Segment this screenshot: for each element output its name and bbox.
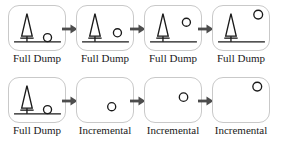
circle-marker-icon [254, 10, 263, 19]
state-panel [76, 5, 134, 51]
state-panel [212, 77, 270, 123]
tree-icon [224, 14, 237, 42]
panel-graphics [213, 6, 269, 50]
panel-caption: Full Dump [1, 52, 73, 65]
tree-icon [156, 14, 169, 42]
panel-graphics [145, 6, 201, 50]
circle-marker-icon [179, 93, 187, 101]
tree-icon [88, 14, 101, 42]
panel-graphics [9, 78, 65, 122]
circle-marker-icon [108, 103, 116, 111]
circle-marker-icon [253, 82, 262, 91]
panel-graphics [213, 78, 269, 122]
sequence-cell: Full Dump [210, 0, 278, 77]
sequence-cell: Incremental [210, 72, 278, 149]
circle-marker-icon [182, 18, 190, 26]
sequence-cell: Incremental [74, 72, 142, 149]
panel-caption: Full Dump [69, 52, 141, 65]
circle-marker-icon [44, 106, 52, 114]
sequence-cell: Full Dump [74, 0, 142, 77]
tree-icon [20, 86, 33, 114]
sequence-cell: Full Dump [142, 0, 210, 77]
panel-graphics [77, 78, 133, 122]
panel-caption: Full Dump [137, 52, 209, 65]
panel-caption: Incremental [69, 124, 141, 137]
state-panel [144, 5, 202, 51]
tree-icon [20, 14, 33, 42]
sequence-cell: Incremental [142, 72, 210, 149]
state-panel [8, 77, 66, 123]
state-panel [76, 77, 134, 123]
panel-graphics [77, 6, 133, 50]
sequence-cell: Full Dump [6, 72, 74, 149]
panel-graphics [9, 6, 65, 50]
panel-caption: Full Dump [1, 124, 73, 137]
backup-sequence-diagram: Full DumpFull DumpFull DumpFull DumpFull… [0, 0, 290, 155]
sequence-cell: Full Dump [6, 0, 74, 77]
panel-graphics [145, 78, 201, 122]
circle-marker-icon [113, 29, 121, 37]
panel-caption: Incremental [205, 124, 277, 137]
circle-marker-icon [44, 34, 52, 42]
state-panel [8, 5, 66, 51]
panel-caption: Incremental [137, 124, 209, 137]
state-panel [212, 5, 270, 51]
row-top: Full DumpFull DumpFull DumpFull Dump [0, 0, 290, 77]
state-panel [144, 77, 202, 123]
panel-caption: Full Dump [205, 52, 277, 65]
row-bottom: Full DumpIncrementalIncrementalIncrement… [0, 72, 290, 149]
